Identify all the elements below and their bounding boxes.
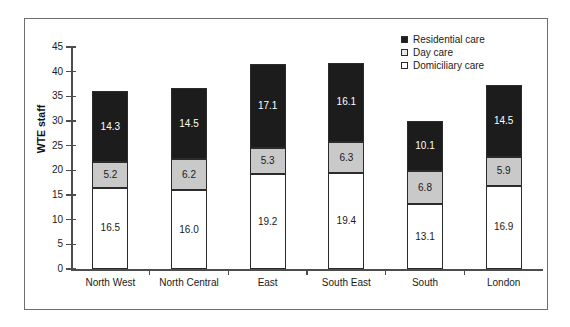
legend-item: Residential care bbox=[401, 33, 485, 46]
bar-segment: 14.3 bbox=[92, 91, 128, 162]
y-axis-tick bbox=[66, 170, 76, 172]
legend-item: Day care bbox=[401, 46, 485, 59]
bar-segment: 19.4 bbox=[328, 173, 364, 269]
bar-segment-value: 17.1 bbox=[258, 101, 277, 111]
bar-segment-value: 16.1 bbox=[337, 97, 356, 107]
x-axis-category-label: East bbox=[228, 277, 307, 288]
legend-label: Residential care bbox=[413, 34, 485, 45]
bar-segment-value: 19.4 bbox=[337, 216, 356, 226]
chart-frame: WTE staff 051015202530354045 16.55.214.3… bbox=[24, 18, 548, 310]
y-axis-tick bbox=[66, 46, 76, 48]
y-axis-tick-label: 25 bbox=[29, 141, 63, 151]
x-axis-tick bbox=[149, 269, 151, 275]
x-axis-category-label: North Central bbox=[150, 277, 229, 288]
bar-stack: 19.46.316.1 bbox=[328, 47, 364, 269]
bar-segment: 6.2 bbox=[171, 159, 207, 190]
bar-segment-value: 6.8 bbox=[418, 183, 432, 193]
x-axis-tick bbox=[385, 269, 387, 275]
bar-segment: 5.9 bbox=[486, 157, 522, 186]
y-axis-tick bbox=[66, 219, 76, 221]
bar-stack: 19.25.317.1 bbox=[250, 47, 286, 269]
y-axis-tick-label: 10 bbox=[29, 215, 63, 225]
x-axis-category-label: London bbox=[464, 277, 543, 288]
legend-label: Day care bbox=[413, 47, 453, 58]
y-axis-tick-label: 15 bbox=[29, 190, 63, 200]
bar-segment: 5.2 bbox=[92, 162, 128, 188]
x-axis-category-label: South East bbox=[307, 277, 386, 288]
bar-segment: 6.3 bbox=[328, 142, 364, 173]
bar-segment: 10.1 bbox=[407, 121, 443, 171]
bar-segment-value: 5.3 bbox=[261, 156, 275, 166]
x-axis-tick bbox=[306, 269, 308, 275]
y-axis-tick bbox=[66, 145, 76, 147]
legend-item: Domiciliary care bbox=[401, 59, 485, 72]
y-axis-tick bbox=[66, 120, 76, 122]
bar-segment-value: 10.1 bbox=[415, 141, 434, 151]
bar-stack: 16.06.214.5 bbox=[171, 47, 207, 269]
bar-segment: 16.5 bbox=[92, 188, 128, 269]
bar-segment-value: 16.9 bbox=[494, 222, 513, 232]
bar-segment: 16.9 bbox=[486, 186, 522, 269]
chart-legend: Residential careDay careDomiciliary care bbox=[397, 31, 489, 74]
y-axis-tick bbox=[66, 268, 76, 270]
bar-stack: 16.95.914.5 bbox=[486, 47, 522, 269]
y-axis-tick bbox=[66, 71, 76, 73]
bar-stack: 16.55.214.3 bbox=[92, 47, 128, 269]
bar-segment: 17.1 bbox=[250, 64, 286, 148]
bar-segment: 5.3 bbox=[250, 148, 286, 174]
bar-segment-value: 19.2 bbox=[258, 217, 277, 227]
bar-segment: 14.5 bbox=[486, 85, 522, 157]
y-axis-tick-label: 30 bbox=[29, 116, 63, 126]
bar-segment-value: 6.2 bbox=[182, 170, 196, 180]
bar-segment-value: 14.5 bbox=[494, 116, 513, 126]
y-axis-tick-label: 0 bbox=[29, 264, 63, 274]
y-axis-tick bbox=[66, 244, 76, 246]
bar-segment: 16.1 bbox=[328, 63, 364, 142]
bar-stack: 13.16.810.1 bbox=[407, 47, 443, 269]
bar-segment: 14.5 bbox=[171, 88, 207, 160]
y-axis-tick-label: 40 bbox=[29, 67, 63, 77]
bar-segment-value: 6.3 bbox=[339, 153, 353, 163]
legend-swatch-icon bbox=[401, 62, 408, 69]
bar-segment: 19.2 bbox=[250, 174, 286, 269]
bar-segment-value: 16.0 bbox=[179, 225, 198, 235]
x-axis-tick bbox=[228, 269, 230, 275]
x-axis-category-label: South bbox=[386, 277, 465, 288]
bar-segment-value: 13.1 bbox=[415, 232, 434, 242]
y-axis-tick-label: 35 bbox=[29, 91, 63, 101]
y-axis-tick bbox=[66, 96, 76, 98]
y-axis-line bbox=[71, 47, 73, 269]
bar-segment: 16.0 bbox=[171, 190, 207, 269]
bar-segment-value: 5.9 bbox=[497, 166, 511, 176]
bar-segment-value: 16.5 bbox=[101, 223, 120, 233]
y-axis-tick-label: 45 bbox=[29, 42, 63, 52]
x-axis-tick bbox=[464, 269, 466, 275]
legend-label: Domiciliary care bbox=[413, 60, 484, 71]
x-axis-category-label: North West bbox=[71, 277, 150, 288]
legend-swatch-icon bbox=[401, 49, 408, 56]
bar-segment-value: 14.3 bbox=[101, 122, 120, 132]
y-axis-tick-label: 20 bbox=[29, 165, 63, 175]
bar-segment: 6.8 bbox=[407, 171, 443, 205]
legend-swatch-icon bbox=[401, 36, 408, 43]
y-axis-tick-label: 5 bbox=[29, 239, 63, 249]
bar-segment-value: 14.5 bbox=[179, 119, 198, 129]
bar-segment: 13.1 bbox=[407, 204, 443, 269]
y-axis-tick bbox=[66, 194, 76, 196]
bar-segment-value: 5.2 bbox=[103, 170, 117, 180]
